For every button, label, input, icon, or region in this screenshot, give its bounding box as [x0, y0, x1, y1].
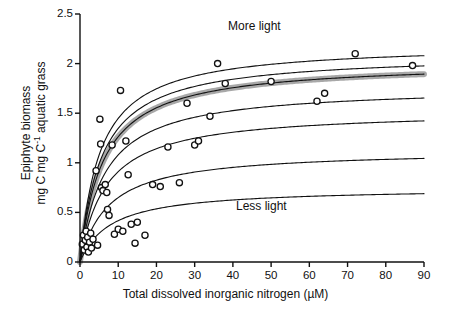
data-point [352, 51, 358, 57]
y-axis-title-suffix: aquatic grass [34, 62, 48, 137]
data-point [88, 245, 94, 251]
data-point [104, 189, 110, 195]
confidence-band-layer [80, 74, 424, 262]
data-point [104, 206, 110, 212]
x-tick-label-70: 70 [328, 270, 368, 282]
y-axis-title: Epiphyte biomass mg C mg C-1 aquatic gra… [19, 3, 49, 263]
data-point [134, 219, 140, 225]
data-point [207, 113, 213, 119]
y-axis-ticks [75, 14, 80, 262]
x-tick-label-60: 60 [289, 270, 329, 282]
confidence-band [80, 74, 424, 262]
data-point [88, 230, 94, 236]
data-point [97, 116, 103, 122]
y-axis-title-exponent: -1 [32, 136, 42, 144]
data-point [93, 168, 99, 174]
x-tick-label-20: 20 [136, 270, 176, 282]
x-axis-title: Total dissolved inorganic nitrogen (µM) [0, 288, 451, 301]
epiphyte-biomass-chart: 00.511.522.5 0102030405060708090 Total d… [0, 0, 451, 315]
data-point [195, 138, 201, 144]
data-points-layer [79, 51, 415, 256]
fitted-curve-2 [80, 66, 424, 262]
data-point [222, 80, 228, 86]
data-point [117, 87, 123, 93]
data-point [176, 180, 182, 186]
data-point [128, 221, 134, 227]
data-point [98, 141, 104, 147]
x-tick-label-80: 80 [366, 270, 406, 282]
fitted-curve-5 [80, 121, 424, 262]
x-tick-label-10: 10 [98, 270, 138, 282]
data-point [109, 142, 115, 148]
data-point [322, 90, 328, 96]
data-point [90, 236, 96, 242]
data-point [314, 98, 320, 104]
data-point [123, 138, 129, 144]
data-point [184, 100, 190, 106]
data-point [157, 184, 163, 190]
y-axis-title-line2: mg C mg C-1 aquatic grass [34, 3, 49, 263]
x-tick-label-40: 40 [213, 270, 253, 282]
x-tick-label-50: 50 [251, 270, 291, 282]
annotation-less-light: Less light [236, 199, 287, 213]
data-point [94, 242, 100, 248]
data-point [102, 182, 108, 188]
data-point [409, 62, 415, 68]
data-point [106, 212, 112, 218]
data-point [125, 172, 131, 178]
data-point [132, 240, 138, 246]
x-tick-label-0: 0 [60, 270, 100, 282]
y-axis-title-line1: Epiphyte biomass [19, 86, 33, 181]
x-tick-label-30: 30 [175, 270, 215, 282]
data-point [215, 61, 221, 67]
data-point [120, 228, 126, 234]
data-point [165, 144, 171, 150]
x-axis-ticks [80, 262, 424, 267]
fitted-curve-3 [80, 74, 424, 262]
annotation-more-light: More light [228, 19, 281, 33]
data-point [268, 78, 274, 84]
data-point [142, 232, 148, 238]
data-point [150, 182, 156, 188]
y-axis-title-units: mg C mg C [34, 144, 48, 205]
x-tick-label-90: 90 [404, 270, 444, 282]
